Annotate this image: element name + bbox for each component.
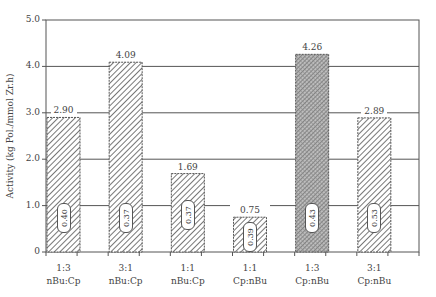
bar-inner-label: 0.43 [305,203,319,233]
bar-chart: Activity (kg Pol./mmol Zr.h) 01.02.03.04… [0,0,436,297]
bar-inner-label: 0.39 [243,222,257,252]
x-tick-label: 3:1nBu:Cp [96,262,156,288]
bar-inner-label: 0.40 [57,203,71,233]
bar-inner-label: 0.53 [367,203,381,233]
bar-inner-label: 0.37 [181,200,195,230]
plot-area [0,0,436,297]
bar-value-label: 0.75 [230,205,270,215]
y-tick-label: 3.0 [16,107,40,117]
bar-value-label: 4.09 [106,50,146,60]
bar-value-label: 4.26 [292,42,332,52]
x-tick-label: 1:3Cp:nBu [282,262,342,288]
y-tick-label: 5.0 [16,14,40,24]
x-tick-label: 3:1Cp:nBu [344,262,404,288]
x-tick-label: 1:1nBu:Cp [158,262,218,288]
bar-inner-label: 0.37 [119,203,133,233]
bar-value-label: 2.89 [361,106,387,116]
y-axis-label: Activity (kg Pol./mmol Zr.h) [5,74,15,199]
y-axis-label-container: Activity (kg Pol./mmol Zr.h) [0,20,20,252]
x-tick-label: 1:1Cp:nBu [220,262,280,288]
y-tick-label: 1.0 [16,200,40,210]
y-tick-label: 2.0 [16,153,40,163]
bar-value-label: 1.69 [168,162,208,172]
y-tick-label: 0 [16,246,40,256]
y-tick-label: 4.0 [16,60,40,70]
bar-value-label: 2.90 [51,105,77,115]
x-tick-label: 1:3nBu:Cp [34,262,94,288]
